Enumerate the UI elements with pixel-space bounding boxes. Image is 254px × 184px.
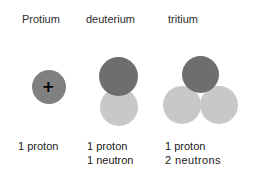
caption-line: 1 proton [165,139,221,153]
hydrogen-isotopes-diagram: Protium deuterium tritium + + + 1 proton… [0,0,254,184]
caption-line: 2 neutrons [165,153,221,167]
proton-particle [182,56,219,93]
heading-tritium: tritium [168,13,198,26]
caption-deuterium: 1 proton 1 neutron [87,139,133,167]
proton-particle [99,57,138,96]
heading-deuterium: deuterium [86,13,135,26]
heading-protium: Protium [22,13,60,26]
proton-charge-icon: + [42,80,55,95]
caption-line: 1 proton [18,139,58,153]
caption-protium: 1 proton [18,139,58,153]
caption-line: 1 neutron [87,153,133,167]
caption-tritium: 1 proton 2 neutrons [165,139,221,167]
caption-line: 1 proton [87,139,133,153]
